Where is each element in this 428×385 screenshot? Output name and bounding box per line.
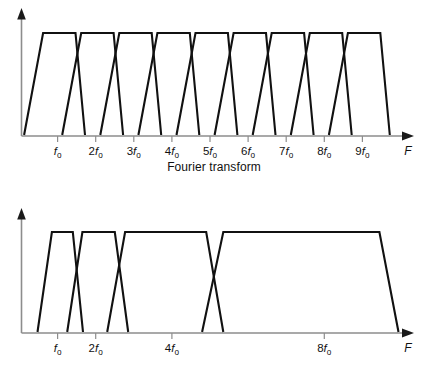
wavelet-band-2 bbox=[67, 232, 128, 332]
fourier-ticklabel-1: fo bbox=[54, 145, 62, 160]
fourier-band-9 bbox=[329, 33, 390, 135]
fourier-y-axis bbox=[17, 8, 26, 136]
fourier-band-group bbox=[24, 33, 390, 135]
fourier-band-1 bbox=[24, 33, 85, 135]
wavelet-band-group bbox=[38, 232, 399, 332]
wavelet-transform-panel: fo 2fo 4fo 8fo F Wavelet transform bbox=[0, 192, 428, 385]
fourier-x-axis bbox=[22, 131, 415, 140]
fourier-caption: Fourier transform bbox=[0, 160, 428, 174]
wavelet-y-axis bbox=[17, 208, 26, 333]
fourier-band-6 bbox=[215, 33, 276, 135]
fourier-band-4 bbox=[138, 33, 199, 135]
figure-root: fo 2fo 3fo 4fo 5fo 6fo 7fo 8fo 9fo F Fou… bbox=[0, 0, 428, 385]
fourier-band-7 bbox=[253, 33, 314, 135]
fourier-ticklabel-2: 2fo bbox=[89, 145, 104, 160]
wavelet-ticklabel-4: 4fo bbox=[165, 342, 180, 357]
fourier-band-3 bbox=[100, 33, 161, 135]
wavelet-x-ticks bbox=[58, 333, 325, 339]
wavelet-transform-chart: fo 2fo 4fo 8fo F bbox=[0, 192, 428, 385]
wavelet-ticklabel-8: 8fo bbox=[317, 342, 332, 357]
fourier-ticklabel-4: 4fo bbox=[165, 145, 180, 160]
wavelet-band-4 bbox=[202, 232, 398, 332]
fourier-transform-panel: fo 2fo 3fo 4fo 5fo 6fo 7fo 8fo 9fo F Fou… bbox=[0, 0, 428, 192]
wavelet-x-axis bbox=[22, 328, 415, 337]
wavelet-band-1 bbox=[38, 232, 84, 332]
fourier-ticklabel-6: 6fo bbox=[241, 145, 256, 160]
fourier-band-5 bbox=[177, 33, 238, 135]
fourier-ticklabel-7: 7fo bbox=[279, 145, 294, 160]
fourier-band-8 bbox=[291, 33, 352, 135]
fourier-x-ticks bbox=[58, 136, 363, 142]
wavelet-ticklabel-2: 2fo bbox=[89, 342, 104, 357]
fourier-axis-label: F bbox=[404, 144, 412, 158]
fourier-ticklabel-9: 9fo bbox=[355, 145, 370, 160]
fourier-tick-labels: fo 2fo 3fo 4fo 5fo 6fo 7fo 8fo 9fo bbox=[54, 145, 370, 160]
fourier-ticklabel-8: 8fo bbox=[317, 145, 332, 160]
fourier-ticklabel-3: 3fo bbox=[127, 145, 142, 160]
wavelet-tick-labels: fo 2fo 4fo 8fo bbox=[54, 342, 332, 357]
wavelet-axis-label: F bbox=[404, 341, 412, 355]
wavelet-ticklabel-1: fo bbox=[54, 342, 62, 357]
fourier-band-2 bbox=[62, 33, 123, 135]
fourier-ticklabel-5: 5fo bbox=[203, 145, 218, 160]
